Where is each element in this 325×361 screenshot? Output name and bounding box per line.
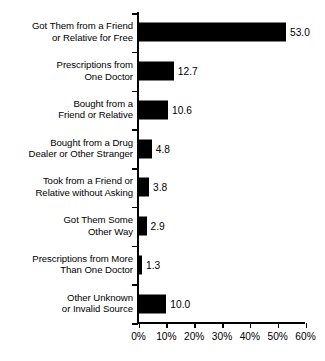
- x-axis-tick-label: 10%: [156, 331, 176, 343]
- bar-category-label-line: Friend or Relative: [58, 110, 133, 122]
- bar-row: Prescriptions from MoreThan One Doctor1.…: [0, 246, 325, 285]
- bar-value-label: 12.7: [178, 66, 198, 77]
- bar-category-label-line: Prescriptions from More: [32, 253, 133, 265]
- bar-category-label-line: or Relative for Free: [32, 32, 133, 44]
- bar: [139, 294, 167, 313]
- plot-area: Got Them from a Friendor Relative for Fr…: [0, 0, 325, 361]
- x-axis-tick: [278, 323, 280, 328]
- bar-value-label: 53.0: [290, 27, 310, 38]
- bar-category-label-line: Bought from a Drug: [29, 137, 133, 149]
- bar-category-label-line: Relative without Asking: [35, 187, 133, 199]
- y-axis-tick: [132, 91, 138, 93]
- bar-value-label: 4.8: [156, 143, 170, 154]
- y-axis-tick: [132, 52, 138, 54]
- bar-value-label: 10.6: [172, 104, 192, 115]
- bar: [139, 255, 143, 274]
- bar-row: Prescriptions fromOne Doctor12.7: [0, 52, 325, 91]
- x-axis-tick: [222, 323, 224, 328]
- bar-category-label: Got Them from a Friendor Relative for Fr…: [32, 21, 133, 44]
- bar: [139, 100, 169, 119]
- bar: [139, 139, 152, 158]
- bar-category-label: Prescriptions from MoreThan One Doctor: [32, 253, 133, 276]
- bar-row: Got Them SomeOther Way2.9: [0, 207, 325, 246]
- x-axis-tick-label: 30%: [212, 331, 232, 343]
- x-axis-tick-label: 50%: [267, 331, 287, 343]
- bar-value-label: 3.8: [153, 182, 167, 193]
- y-axis-tick: [132, 323, 138, 325]
- bar-category-label-line: Took from a Friend or: [35, 176, 133, 188]
- x-axis-tick: [139, 323, 141, 328]
- bar-category-label-line: or Invalid Source: [62, 304, 133, 316]
- bar-value-label: 1.3: [146, 259, 160, 270]
- bar-category-label-line: Other Way: [63, 226, 133, 238]
- bar-category-label-line: Bought from a: [58, 98, 133, 110]
- bar-row: Took from a Friend orRelative without As…: [0, 168, 325, 207]
- bar-category-label-line: Dealer or Other Stranger: [29, 149, 133, 161]
- bar-category-label-line: Other Unknown: [62, 292, 133, 304]
- bar-category-label: Got Them SomeOther Way: [63, 215, 133, 238]
- y-axis-tick: [132, 13, 138, 15]
- bar-category-label: Took from a Friend orRelative without As…: [35, 176, 133, 199]
- y-axis-tick: [132, 129, 138, 131]
- x-axis-tick: [194, 323, 196, 328]
- y-axis-tick: [132, 168, 138, 170]
- bar-category-label-line: Got Them from a Friend: [32, 21, 133, 33]
- bar-category-label-line: One Doctor: [57, 71, 133, 83]
- y-axis-tick: [132, 284, 138, 286]
- bar-category-label: Other Unknownor Invalid Source: [62, 292, 133, 315]
- x-axis-tick-label: 60%: [295, 331, 315, 343]
- bar-value-label: 10.0: [170, 298, 190, 309]
- bar-category-label-line: Prescriptions from: [57, 60, 133, 72]
- bar-chart: Got Them from a Friendor Relative for Fr…: [0, 0, 325, 361]
- bar-row: Got Them from a Friendor Relative for Fr…: [0, 13, 325, 52]
- x-axis-tick-label: 20%: [184, 331, 204, 343]
- bar-value-label: 2.9: [151, 221, 165, 232]
- bar-category-label-line: Than One Doctor: [32, 265, 133, 277]
- x-axis-tick-label: 40%: [240, 331, 260, 343]
- x-axis-tick: [166, 323, 168, 328]
- bar-category-label: Bought from aFriend or Relative: [58, 98, 133, 121]
- x-axis-tick: [250, 323, 252, 328]
- bar: [139, 217, 147, 236]
- bar: [139, 23, 287, 42]
- x-axis-tick-label: 0%: [131, 331, 146, 343]
- y-axis-tick: [132, 207, 138, 209]
- y-axis-tick: [132, 246, 138, 248]
- bar-row: Bought from aFriend or Relative10.6: [0, 91, 325, 130]
- bar: [139, 178, 150, 197]
- x-axis-tick: [306, 323, 308, 328]
- bar-category-label-line: Got Them Some: [63, 215, 133, 227]
- bar-category-label: Bought from a DrugDealer or Other Strang…: [29, 137, 133, 160]
- bar: [139, 62, 174, 81]
- bar-category-label: Prescriptions fromOne Doctor: [57, 60, 133, 83]
- bar-row: Bought from a DrugDealer or Other Strang…: [0, 129, 325, 168]
- bar-row: Other Unknownor Invalid Source10.0: [0, 284, 325, 323]
